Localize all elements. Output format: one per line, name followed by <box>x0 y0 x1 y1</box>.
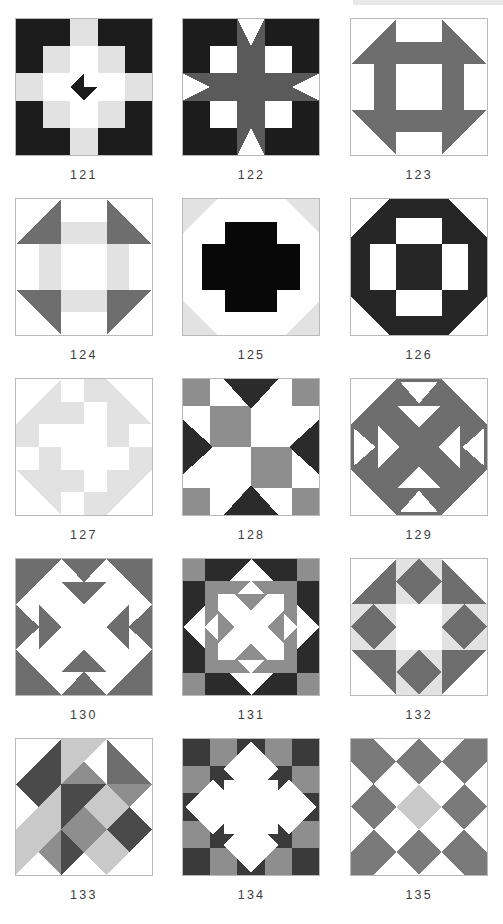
quilt-block-cell: 129 <box>335 378 503 558</box>
quilt-block-caption: 121 <box>70 168 97 182</box>
quilt-block-caption: 130 <box>70 708 97 722</box>
quilt-block-caption: 135 <box>405 888 432 902</box>
quilt-block-art <box>183 559 319 695</box>
quilt-block-art <box>16 559 152 695</box>
quilt-block-121 <box>15 18 153 156</box>
quilt-block-caption: 122 <box>238 168 265 182</box>
quilt-block-135 <box>350 738 488 876</box>
quilt-block-cell: 133 <box>0 738 168 918</box>
quilt-block-caption: 125 <box>238 348 265 362</box>
quilt-block-cell: 134 <box>168 738 336 918</box>
quilt-block-cell: 124 <box>0 198 168 378</box>
quilt-block-cell: 122 <box>168 18 336 198</box>
quilt-block-129 <box>350 378 488 516</box>
quilt-block-art <box>183 19 319 155</box>
quilt-block-134 <box>182 738 320 876</box>
quilt-block-caption: 132 <box>405 708 432 722</box>
quilt-block-art <box>351 199 487 335</box>
quilt-block-cell: 123 <box>335 18 503 198</box>
quilt-block-art <box>183 739 319 875</box>
quilt-block-126 <box>350 198 488 336</box>
quilt-block-art <box>183 379 319 515</box>
quilt-block-art <box>351 559 487 695</box>
quilt-block-caption: 124 <box>70 348 97 362</box>
quilt-block-art <box>351 19 487 155</box>
quilt-block-cell: 131 <box>168 558 336 738</box>
quilt-block-131 <box>182 558 320 696</box>
quilt-block-art <box>16 379 152 515</box>
quilt-block-caption: 126 <box>405 348 432 362</box>
quilt-block-art <box>16 199 152 335</box>
quilt-block-cell: 135 <box>335 738 503 918</box>
quilt-block-art <box>183 199 319 335</box>
quilt-block-124 <box>15 198 153 336</box>
quilt-block-caption: 123 <box>405 168 432 182</box>
quilt-block-caption: 131 <box>238 708 265 722</box>
quilt-block-cell: 128 <box>168 378 336 558</box>
quilt-catalog-page: 1211221231241251261271281291301311321331… <box>0 0 503 924</box>
quilt-block-art <box>16 19 152 155</box>
page-top-edge-artifact <box>353 0 503 5</box>
quilt-block-127 <box>15 378 153 516</box>
quilt-block-132 <box>350 558 488 696</box>
quilt-block-cell: 121 <box>0 18 168 198</box>
quilt-block-cell: 130 <box>0 558 168 738</box>
quilt-block-caption: 127 <box>70 528 97 542</box>
quilt-block-cell: 127 <box>0 378 168 558</box>
quilt-block-128 <box>182 378 320 516</box>
quilt-block-cell: 126 <box>335 198 503 378</box>
quilt-block-122 <box>182 18 320 156</box>
quilt-block-133 <box>15 738 153 876</box>
quilt-block-125 <box>182 198 320 336</box>
quilt-block-grid: 1211221231241251261271281291301311321331… <box>0 18 503 918</box>
quilt-block-caption: 134 <box>238 888 265 902</box>
quilt-block-130 <box>15 558 153 696</box>
quilt-block-123 <box>350 18 488 156</box>
quilt-block-caption: 133 <box>70 888 97 902</box>
quilt-block-art <box>351 739 487 875</box>
quilt-block-art <box>16 739 152 875</box>
quilt-block-caption: 128 <box>238 528 265 542</box>
quilt-block-cell: 132 <box>335 558 503 738</box>
quilt-block-cell: 125 <box>168 198 336 378</box>
quilt-block-caption: 129 <box>405 528 432 542</box>
quilt-block-art <box>351 379 487 515</box>
